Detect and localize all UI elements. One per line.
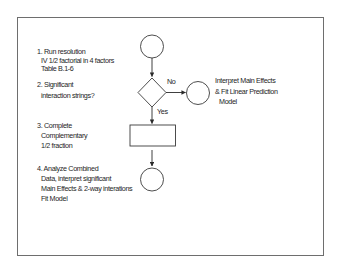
step1-label: 1. Run resolution IV 1/2 factorial in 4 … <box>37 48 114 74</box>
decision-diamond <box>138 78 166 107</box>
no-branch-line2: & Fit Linear Prediction <box>215 87 278 98</box>
start-circle <box>141 35 164 58</box>
step3-line3: 1/2 fraction <box>37 141 87 151</box>
step2-line2: interaction strings? <box>37 91 94 102</box>
step2-line1: 2. Significant <box>37 80 94 91</box>
step3-line1: 3. Complete <box>37 121 87 131</box>
interpret-main-effects-circle <box>187 82 210 105</box>
analyze-combined-circle <box>141 168 164 191</box>
step3-label: 3. Complete Complementary 1/2 fraction <box>37 121 87 151</box>
step1-line3: Table B.1-6 <box>37 65 114 74</box>
step2-label: 2. Significant interaction strings? <box>37 80 94 101</box>
step4-line4: Fit Model <box>37 194 132 204</box>
no-branch-line3: Model <box>215 97 278 108</box>
step4-line1: 4. Analyze Combined <box>37 164 132 174</box>
edge-label-no: No <box>167 77 176 86</box>
step4-line2: Data, interpret significant <box>37 174 132 184</box>
step3-line2: Complementary <box>37 131 87 141</box>
no-branch-line1: Interpret Main Effects <box>215 76 278 87</box>
step4-label: 4. Analyze Combined Data, interpret sign… <box>37 164 132 204</box>
complementary-fraction-box <box>130 125 176 146</box>
step4-line3: Main Effects & 2-way interations <box>37 184 132 194</box>
no-branch-label: Interpret Main Effects & Fit Linear Pred… <box>215 76 278 108</box>
edge-label-yes: Yes <box>157 107 168 116</box>
